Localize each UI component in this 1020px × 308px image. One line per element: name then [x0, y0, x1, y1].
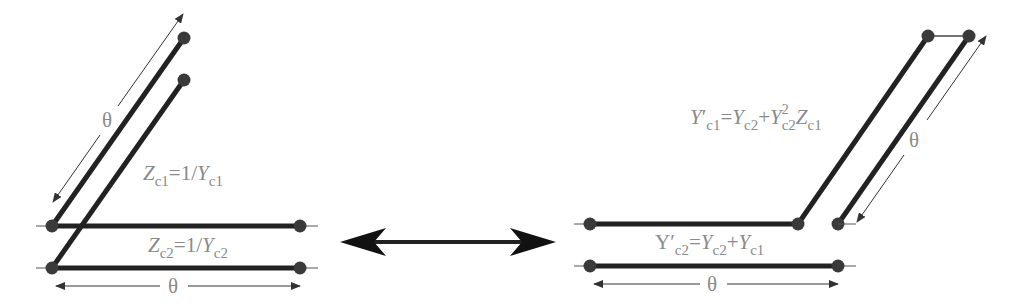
left-lower-impedance-equation: Zc2=1/Yc2: [148, 235, 228, 261]
node: [294, 262, 307, 275]
coupled-line-equivalence-diagram: [0, 0, 1020, 308]
right-circuit: [574, 30, 986, 285]
left-upper-impedance-equation: Zc1=1/Yc1: [143, 163, 223, 189]
node: [922, 30, 935, 43]
left-diagonal-line-1: [52, 38, 184, 226]
node: [584, 260, 597, 273]
left-horizontal-theta-label: θ: [166, 276, 180, 297]
right-diagonal-stub: [838, 36, 969, 224]
node: [46, 220, 59, 233]
right-line-admittance-equation: Y′c2=Yc2+Yc1: [655, 232, 764, 258]
right-horizontal-theta-label: θ: [705, 274, 719, 295]
node: [792, 218, 805, 231]
left-diagonal-theta-label: θ: [100, 110, 114, 131]
node: [294, 220, 307, 233]
node: [46, 262, 59, 275]
node: [832, 260, 845, 273]
node: [963, 30, 976, 43]
right-diagonal-theta-label: θ: [907, 130, 921, 151]
right-stub-admittance-equation: Y′c1=Yc2+Y2c2Zc1: [690, 103, 822, 133]
equivalence-double-arrow: [340, 228, 556, 256]
node: [178, 74, 191, 87]
right-diagonal-dimension-arrow-up: [927, 36, 986, 120]
node: [584, 218, 597, 231]
node: [178, 32, 191, 45]
